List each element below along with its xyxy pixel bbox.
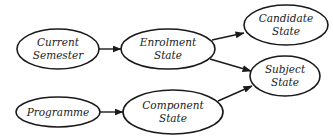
node-label: Current	[37, 36, 80, 48]
node-label: Programme	[26, 106, 90, 118]
node-label: State	[272, 25, 300, 37]
nodes: CurrentSemesterEnrolmentStateCandidateSt…	[16, 5, 328, 134]
arrow-icon	[212, 33, 244, 40]
edge-enrolment-state-to-candidate-state	[212, 33, 244, 40]
node-label: State	[271, 76, 299, 88]
node-label: State	[154, 49, 182, 61]
node-enrolment-state: EnrolmentState	[121, 29, 215, 69]
node-label: State	[159, 112, 187, 124]
node-current-semester: CurrentSemester	[17, 29, 99, 69]
node-label: Semester	[33, 49, 84, 61]
node-label: Component	[142, 99, 204, 111]
node-label: Candidate	[259, 12, 314, 24]
arrow-icon	[210, 59, 251, 71]
edge-component-state-to-subject-state	[218, 86, 252, 101]
arrow-icon	[218, 86, 252, 101]
node-component-state: ComponentState	[123, 90, 223, 134]
node-programme: Programme	[16, 97, 100, 127]
node-subject-state: SubjectState	[250, 56, 320, 96]
node-label: Enrolment	[139, 36, 197, 48]
node-label: Subject	[265, 63, 306, 75]
edge-enrolment-state-to-subject-state	[210, 59, 251, 71]
node-candidate-state: CandidateState	[244, 5, 328, 45]
diagram-canvas: CurrentSemesterEnrolmentStateCandidateSt…	[0, 0, 333, 137]
